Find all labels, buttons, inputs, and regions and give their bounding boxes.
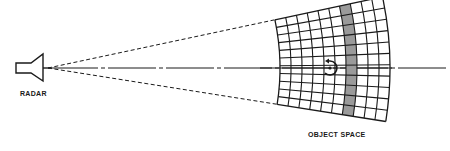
beam-lines bbox=[48, 20, 277, 105]
radar-label: RADAR bbox=[20, 90, 47, 97]
diagram-canvas bbox=[0, 0, 450, 151]
horn-antenna-icon bbox=[16, 54, 50, 81]
object-space-label: OBJECT SPACE bbox=[308, 131, 366, 138]
